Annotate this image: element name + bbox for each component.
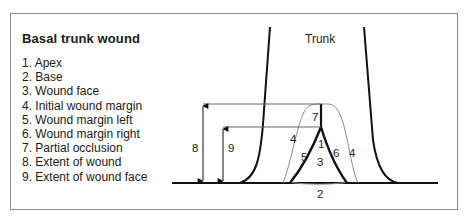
- trunk-label: Trunk: [305, 32, 336, 46]
- trunk-left-outline: [240, 27, 270, 183]
- wound-diagram: Trunk 8 9 7 1 3 4 5 6 4 2: [0, 0, 473, 219]
- marker-margin-left: 5: [301, 151, 307, 163]
- marker-initial-margin-left: 4: [290, 133, 297, 145]
- marker-partial-occlusion: 7: [312, 111, 318, 123]
- marker-margin-right: 6: [333, 147, 339, 159]
- marker-extent-of-wound: 8: [192, 142, 198, 154]
- marker-base: 2: [317, 188, 323, 200]
- marker-initial-margin-right: 4: [349, 147, 356, 159]
- marker-extent-of-wound-face: 9: [228, 142, 234, 154]
- marker-wound-face: 3: [317, 156, 323, 168]
- trunk-right-outline: [364, 27, 398, 183]
- marker-apex: 1: [318, 138, 324, 150]
